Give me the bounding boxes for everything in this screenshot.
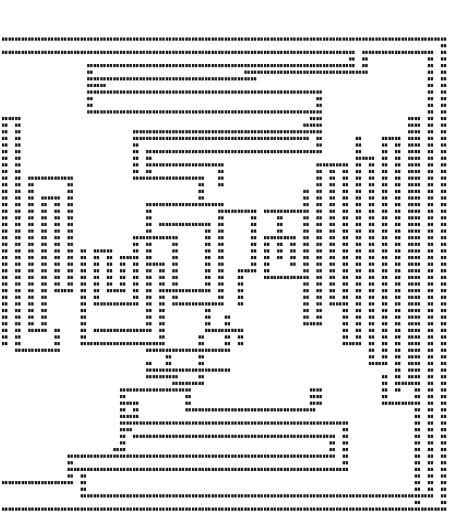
maze-glyph [297,408,302,411]
maze-glyph [107,64,112,67]
maze-glyph [441,117,446,120]
maze-glyph [336,163,341,166]
maze-glyph [303,229,308,232]
maze-glyph [231,210,236,213]
maze-glyph [375,362,380,365]
maze-glyph [41,309,46,312]
maze-glyph [382,316,387,319]
maze-glyph [290,137,295,140]
maze-glyph [441,190,446,193]
maze-glyph [310,455,315,458]
maze-glyph [297,64,302,67]
maze-glyph [428,269,433,272]
maze-glyph [395,249,400,252]
maze-glyph [153,150,158,153]
maze-glyph [15,236,20,239]
maze-glyph [343,269,348,272]
maze-glyph [382,170,387,173]
maze-glyph [28,282,33,285]
maze-glyph [199,302,204,305]
maze-glyph [2,309,7,312]
maze-glyph [362,64,367,67]
maze-glyph [323,468,328,471]
maze-glyph [199,223,204,226]
maze-glyph [225,90,230,93]
maze-glyph [218,163,223,166]
maze-glyph [159,375,164,378]
maze-glyph [146,38,151,41]
maze-glyph [316,177,321,180]
maze-glyph [316,263,321,266]
maze-glyph [185,38,190,41]
maze-glyph [81,488,86,491]
maze-glyph [316,163,321,166]
maze-glyph [277,71,282,74]
maze-glyph [388,494,393,497]
maze-glyph [212,130,217,133]
maze-glyph [356,38,361,41]
maze-glyph [415,402,420,405]
maze-glyph [199,51,204,54]
maze-glyph [120,110,125,113]
maze-glyph [9,508,14,511]
maze-glyph [146,130,151,133]
maze-glyph [166,163,171,166]
maze-glyph [166,150,171,153]
maze-glyph [35,349,40,352]
maze-glyph [343,71,348,74]
maze-glyph [120,494,125,497]
maze-glyph [369,190,374,193]
maze-glyph [316,508,321,511]
maze-glyph [238,329,243,332]
maze-glyph [316,137,321,140]
maze-glyph [126,51,131,54]
maze-glyph [218,38,223,41]
maze-glyph [41,329,46,332]
maze-glyph [15,329,20,332]
maze-glyph [133,236,138,239]
maze-glyph [146,51,151,54]
maze-glyph [277,256,282,259]
maze-glyph [271,435,276,438]
maze-glyph [356,236,361,239]
maze-glyph [369,170,374,173]
maze-glyph [441,342,446,345]
maze-glyph [87,468,92,471]
maze-glyph [35,508,40,511]
maze-glyph [251,51,256,54]
maze-glyph [343,289,348,292]
maze-glyph [330,263,335,266]
maze-glyph [225,349,230,352]
maze-glyph [218,329,223,332]
maze-glyph [375,494,380,497]
maze-glyph [87,84,92,87]
maze-glyph [205,130,210,133]
maze-glyph [74,51,79,54]
maze-glyph [244,38,249,41]
maze-glyph [133,329,138,332]
maze-glyph [212,110,217,113]
maze-glyph [310,150,315,153]
maze-glyph [297,468,302,471]
maze-glyph [107,289,112,292]
maze-glyph [349,71,354,74]
maze-glyph [290,263,295,266]
maze-glyph [231,421,236,424]
maze-glyph [428,309,433,312]
maze-glyph [126,64,131,67]
maze-glyph [172,130,177,133]
maze-glyph [54,216,59,219]
maze-glyph [199,355,204,358]
maze-glyph [441,309,446,312]
maze-glyph [290,408,295,411]
maze-glyph [323,455,328,458]
maze-glyph [68,481,73,484]
maze-glyph [264,508,269,511]
maze-glyph [238,110,243,113]
maze-glyph [395,190,400,193]
maze-glyph [212,494,217,497]
maze-glyph [408,150,413,153]
maze-glyph [159,335,164,338]
maze-glyph [428,163,433,166]
maze-glyph [415,415,420,418]
